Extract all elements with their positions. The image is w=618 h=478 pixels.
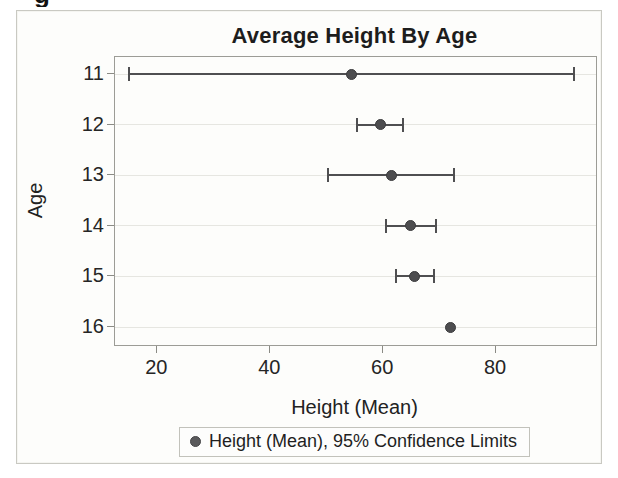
x-tick-20 xyxy=(156,346,157,353)
ci-cap-lower-age-14 xyxy=(385,219,387,233)
ci-cap-upper-age-12 xyxy=(402,118,404,132)
chart-title: Average Height By Age xyxy=(114,23,595,49)
ci-cap-upper-age-11 xyxy=(573,67,575,81)
legend: Height (Mean), 95% Confidence Limits xyxy=(114,427,595,457)
y-tick-14 xyxy=(107,225,114,226)
y-tick-label-14: 14 xyxy=(56,214,104,237)
y-tick-15 xyxy=(107,275,114,276)
ci-cap-upper-age-15 xyxy=(433,269,435,283)
mean-dot-age-13 xyxy=(386,170,397,181)
ci-cap-lower-age-11 xyxy=(128,67,130,81)
y-axis-label: Age xyxy=(24,121,47,281)
mean-dot-age-14 xyxy=(405,220,416,231)
screenshot-root: g Average Height By Age 1112131415162040… xyxy=(0,0,618,478)
y-tick-label-12: 12 xyxy=(56,113,104,136)
figure-frame: Average Height By Age 111213141516204060… xyxy=(16,10,602,464)
y-tick-12 xyxy=(107,124,114,125)
legend-box: Height (Mean), 95% Confidence Limits xyxy=(179,427,530,457)
gridline-age-16 xyxy=(115,327,596,328)
x-tick-40 xyxy=(269,346,270,353)
y-tick-16 xyxy=(107,326,114,327)
mean-dot-age-15 xyxy=(409,271,420,282)
ci-cap-upper-age-14 xyxy=(435,219,437,233)
x-axis-label: Height (Mean) xyxy=(114,396,595,419)
legend-label: Height (Mean), 95% Confidence Limits xyxy=(209,431,517,452)
ci-cap-lower-age-13 xyxy=(327,168,329,182)
x-tick-80 xyxy=(495,346,496,353)
y-tick-13 xyxy=(107,174,114,175)
gridline-age-15 xyxy=(115,276,596,277)
x-tick-label-20: 20 xyxy=(126,356,186,379)
y-tick-label-13: 13 xyxy=(56,163,104,186)
x-tick-label-80: 80 xyxy=(465,356,525,379)
gridline-age-14 xyxy=(115,225,596,226)
mean-dot-age-16 xyxy=(445,322,456,333)
mean-dot-age-12 xyxy=(375,119,386,130)
x-tick-60 xyxy=(382,346,383,353)
cropped-caption-fragment: g xyxy=(30,0,66,7)
plot-wall xyxy=(114,56,597,346)
ci-cap-lower-age-12 xyxy=(356,118,358,132)
cropped-caption-letter: g xyxy=(34,0,50,7)
x-tick-label-40: 40 xyxy=(239,356,299,379)
y-tick-label-11: 11 xyxy=(56,62,104,85)
y-tick-label-16: 16 xyxy=(56,315,104,338)
mean-dot-age-11 xyxy=(346,69,357,80)
ci-cap-upper-age-13 xyxy=(453,168,455,182)
legend-dot-marker-icon xyxy=(190,436,201,447)
x-tick-label-60: 60 xyxy=(352,356,412,379)
y-tick-label-15: 15 xyxy=(56,264,104,287)
y-tick-11 xyxy=(107,73,114,74)
ci-cap-lower-age-15 xyxy=(395,269,397,283)
